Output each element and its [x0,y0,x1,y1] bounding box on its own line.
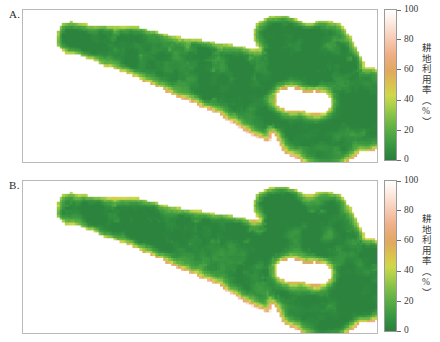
panel-a-colorbar-gradient [384,9,397,161]
colorbar-tick-label: 0 [404,326,409,336]
colorbar-tick-mark [397,69,401,70]
colorbar-tick-label: 60 [404,236,414,246]
colorbar-tick-label: 40 [404,95,414,105]
colorbar-tick-mark [397,181,401,182]
colorbar-tick-mark [397,240,401,241]
colorbar-tick-mark [397,100,401,101]
colorbar-tick-label: 80 [404,206,414,216]
colorbar-tick-mark [397,130,401,131]
panel-b-colorbar: 100806040200 耕地利用率（%） [384,180,440,334]
colorbar-tick-label: 100 [404,176,418,186]
colorbar-tick-mark [397,210,401,211]
colorbar-tick-label: 20 [404,126,414,136]
panel-a-colorbar-title-text: 耕地利用率（%） [419,43,433,127]
panel-a: A. 100806040200 耕地利用率（%） [0,0,440,171]
colorbar-tick-label: 100 [404,5,418,15]
panel-b: B. 100806040200 耕地利用率（%） [0,171,440,342]
panel-a-label: A. [9,8,20,20]
panel-b-label: B. [9,179,20,191]
colorbar-tick-mark [397,301,401,302]
figure-root: A. 100806040200 耕地利用率（%） B. 100806040200… [0,0,440,342]
panel-b-colorbar-gradient [384,180,397,332]
colorbar-tick-label: 0 [404,155,409,165]
colorbar-tick-mark [397,271,401,272]
panel-a-map-frame [22,9,378,163]
panel-b-colorbar-title: 耕地利用率（%） [418,180,434,332]
panel-b-map-frame [22,180,378,334]
colorbar-tick-mark [397,331,401,332]
colorbar-tick-mark [397,160,401,161]
colorbar-tick-label: 60 [404,65,414,75]
panel-a-colorbar-title: 耕地利用率（%） [418,9,434,161]
panel-b-map-raster [23,181,377,333]
panel-b-colorbar-title-text: 耕地利用率（%） [419,214,433,298]
panel-a-map-raster [23,10,377,162]
colorbar-tick-label: 20 [404,297,414,307]
colorbar-tick-mark [397,10,401,11]
colorbar-tick-label: 40 [404,266,414,276]
colorbar-tick-mark [397,39,401,40]
panel-a-colorbar: 100806040200 耕地利用率（%） [384,9,440,163]
colorbar-tick-label: 80 [404,35,414,45]
